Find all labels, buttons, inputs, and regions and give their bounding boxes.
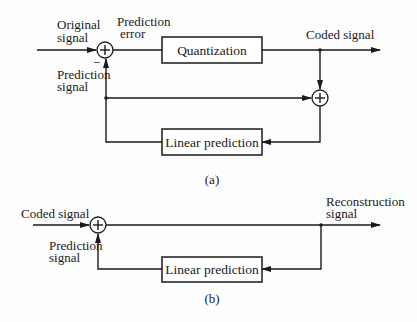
dpcm-diagram: Original signal − Prediction error Quant… bbox=[0, 0, 417, 322]
coded-signal-label-b: Coded signal bbox=[21, 206, 90, 221]
quantization-block: Quantization bbox=[162, 37, 262, 63]
linear-prediction-label: Linear prediction bbox=[165, 135, 259, 150]
feedback-arrow-b bbox=[262, 225, 321, 269]
prediction-signal-arrow-b bbox=[98, 234, 162, 269]
linear-prediction-label-b: Linear prediction bbox=[165, 262, 259, 277]
linear-prediction-block-b: Linear prediction bbox=[162, 257, 262, 282]
reconstruction-signal-label-2: signal bbox=[326, 206, 357, 221]
prediction-signal-arrow bbox=[106, 59, 162, 142]
coded-signal-label: Coded signal bbox=[306, 27, 375, 42]
prediction-signal-label-2: signal bbox=[57, 79, 88, 94]
original-signal-label-2: signal bbox=[57, 30, 88, 45]
prediction-error-label-2: error bbox=[120, 26, 146, 41]
reconstruction-feedback-arrow bbox=[262, 106, 320, 142]
summing-junction-b bbox=[90, 217, 106, 233]
decoder-diagram: Coded signal Reconstruction signal Linea… bbox=[21, 194, 405, 306]
diagram-svg: Original signal − Prediction error Quant… bbox=[0, 0, 417, 322]
encoder-diagram: Original signal − Prediction error Quant… bbox=[37, 14, 380, 187]
quantization-label: Quantization bbox=[177, 43, 247, 58]
caption-b: (b) bbox=[204, 291, 219, 306]
prediction-signal-label-b-2: signal bbox=[49, 250, 80, 265]
linear-prediction-block-a: Linear prediction bbox=[162, 129, 262, 155]
caption-a: (a) bbox=[205, 172, 219, 187]
summing-junction-2 bbox=[312, 90, 328, 106]
